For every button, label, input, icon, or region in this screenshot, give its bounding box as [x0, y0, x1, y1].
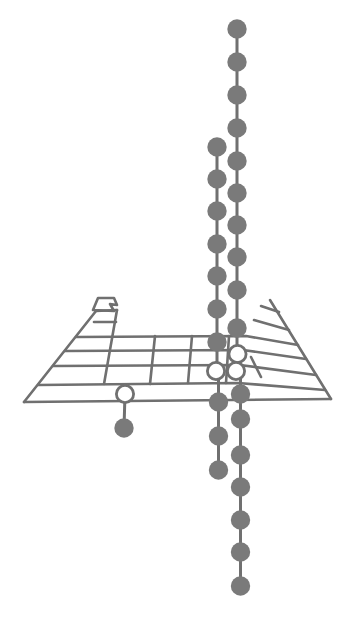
right-chain-plane-ring	[227, 362, 244, 379]
right-chain-dot	[227, 318, 246, 337]
left-chain-dot	[209, 460, 228, 479]
left-chain-dot	[209, 426, 228, 445]
right-chain-dot	[227, 118, 246, 137]
left-chain-dot	[207, 299, 226, 318]
periodic-table-3d-diagram	[0, 0, 362, 630]
table-grid-line-period-row-1	[76, 336, 298, 345]
right-chain-dot	[231, 409, 250, 428]
table-grid-line-column-line-2	[188, 336, 192, 383]
right-chain-dot	[231, 510, 250, 529]
right-chain-dot	[227, 19, 246, 38]
table-grid-line-period-row-3	[53, 365, 316, 375]
figure-canvas	[0, 0, 362, 630]
right-chain-dot	[231, 576, 250, 595]
front-row-lollipop-ring	[116, 385, 133, 402]
left-chain-dot	[207, 234, 226, 253]
left-chain-dot	[207, 266, 226, 285]
right-chain-dot	[227, 151, 246, 170]
table-grid-line-period-row-2	[65, 350, 306, 359]
left-chain-dot	[207, 201, 226, 220]
element-dots	[114, 19, 250, 595]
front-row-lollipop-dot	[114, 418, 133, 437]
right-chain-plane-ring	[229, 345, 246, 362]
right-chain-dot	[227, 183, 246, 202]
right-chain-dot	[227, 247, 246, 266]
right-chain-dot	[227, 280, 246, 299]
table-grid-line-column-line-1	[150, 336, 155, 384]
right-chain-dot	[227, 52, 246, 71]
right-chain-line	[237, 29, 241, 586]
table-grid-line-period-row-4	[38, 383, 325, 390]
table-grid-line-front-edge	[24, 399, 331, 402]
table-grid-line-right-edge	[270, 300, 331, 399]
table-grid-line-left-edge	[24, 311, 96, 402]
hydrogen-flag-cell	[93, 298, 117, 311]
right-chain-dot	[231, 542, 250, 561]
left-chain-dot	[207, 169, 226, 188]
right-chain-dot	[231, 477, 250, 496]
right-chain-dot	[227, 215, 246, 234]
periodic-table-plane	[24, 298, 331, 402]
right-chain-dot	[231, 384, 250, 403]
left-chain-plane-ring	[207, 362, 224, 379]
diagram-root	[24, 19, 331, 595]
right-chain-dot	[227, 85, 246, 104]
left-chain-dot	[209, 392, 228, 411]
left-chain-dot	[207, 332, 226, 351]
right-chain-dot	[231, 445, 250, 464]
left-chain-dot	[207, 137, 226, 156]
